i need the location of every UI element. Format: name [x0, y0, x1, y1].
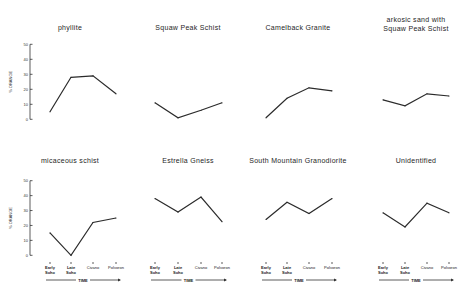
data-point	[426, 203, 427, 204]
x-tick-label: Polvoron	[214, 265, 230, 270]
data-point	[115, 217, 116, 218]
x-axis-label: TIME	[411, 278, 421, 283]
y-tick-label: 30	[24, 72, 29, 77]
x-tick-label-line2: Soho	[150, 270, 161, 275]
data-point	[382, 99, 383, 100]
data-point	[331, 90, 332, 91]
panel-title: Camelback Granite	[265, 24, 330, 31]
time-arrow-head	[224, 279, 227, 282]
y-tick-label: 30	[24, 208, 29, 213]
data-point	[49, 111, 50, 112]
data-point	[70, 77, 71, 78]
data-point	[92, 75, 93, 76]
x-axis-label: TIME	[294, 278, 304, 283]
y-tick-label: 40	[24, 57, 29, 62]
data-point	[92, 222, 93, 223]
y-tick-label: 10	[24, 238, 29, 243]
data-point	[221, 102, 222, 103]
y-axis-label: % ORANGE	[8, 70, 13, 92]
x-tick-label-line2: Soho	[173, 270, 184, 275]
x-tick-label-line2: Soho	[400, 270, 411, 275]
chart-grid: phyllite01020304050% ORANGESquaw Peak Sc…	[0, 0, 467, 289]
data-point	[49, 232, 50, 233]
y-tick-label: 20	[24, 223, 29, 228]
data-point	[154, 102, 155, 103]
data-point	[177, 117, 178, 118]
data-point	[426, 93, 427, 94]
data-point	[200, 197, 201, 198]
data-point	[331, 198, 332, 199]
time-arrow-head	[118, 279, 121, 282]
data-point	[308, 87, 309, 88]
series-line	[383, 94, 449, 106]
x-tick-label-line2: Soho	[45, 270, 56, 275]
data-point	[404, 226, 405, 227]
series-line	[383, 203, 449, 227]
time-arrow-head	[451, 279, 454, 282]
data-point	[70, 255, 71, 256]
data-point	[200, 110, 201, 111]
series-line	[50, 218, 116, 255]
y-axis-label: % ORANGE	[8, 207, 13, 229]
x-tick-label: Polvoron	[324, 265, 340, 270]
data-point	[308, 213, 309, 214]
series-line	[155, 197, 222, 222]
y-tick-label: 20	[24, 87, 29, 92]
panel-title: Estrella Gneiss	[162, 157, 214, 164]
panel-title: Unidentified	[396, 157, 437, 164]
panel-title: micaceous schist	[41, 157, 99, 164]
x-tick-label: Civano	[195, 265, 208, 270]
x-tick-label: Polvoron	[441, 265, 457, 270]
data-point	[154, 198, 155, 199]
data-point	[265, 117, 266, 118]
y-tick-label: 0	[26, 253, 29, 258]
x-tick-label: Civano	[303, 265, 316, 270]
series-line	[266, 88, 332, 118]
panel-title-line2: Squaw Peak Schist	[383, 25, 448, 33]
data-point	[286, 98, 287, 99]
panel-title: phyllite	[58, 24, 82, 32]
y-tick-label: 50	[24, 178, 29, 183]
y-tick-label: 10	[24, 102, 29, 107]
data-point	[265, 219, 266, 220]
series-line	[50, 76, 116, 112]
data-point	[177, 211, 178, 212]
x-tick-label-line2: Soho	[282, 270, 293, 275]
y-tick-label: 40	[24, 193, 29, 198]
x-tick-label: Polvoron	[108, 265, 124, 270]
data-point	[404, 105, 405, 106]
y-tick-label: 50	[24, 42, 29, 47]
series-line	[155, 103, 222, 118]
data-point	[448, 95, 449, 96]
x-axis-label: TIME	[184, 278, 194, 283]
panel-title: South Mountain Granodiorite	[249, 157, 347, 164]
series-line	[266, 199, 332, 220]
x-axis-label: TIME	[78, 278, 88, 283]
panel-title: Squaw Peak Schist	[155, 24, 220, 32]
data-point	[382, 212, 383, 213]
x-tick-label: Civano	[421, 265, 434, 270]
time-arrow-head	[334, 279, 337, 282]
x-tick-label-line2: Soho	[378, 270, 389, 275]
y-tick-label: 0	[26, 117, 29, 122]
x-tick-label-line2: Soho	[66, 270, 77, 275]
data-point	[221, 221, 222, 222]
data-point	[448, 212, 449, 213]
x-tick-label: Civano	[87, 265, 100, 270]
data-point	[115, 93, 116, 94]
data-point	[286, 202, 287, 203]
panel-title: arkosic sand with	[387, 16, 446, 23]
x-tick-label-line2: Soho	[261, 270, 272, 275]
